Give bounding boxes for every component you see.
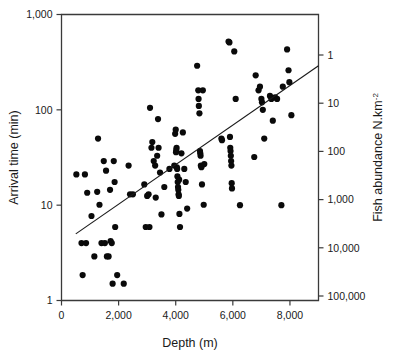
- data-point: [260, 107, 266, 113]
- data-point: [94, 189, 100, 195]
- data-point: [102, 240, 108, 246]
- data-point: [80, 272, 86, 278]
- data-point: [153, 195, 159, 201]
- x-tick-label: 0: [59, 309, 65, 321]
- data-point: [155, 116, 161, 122]
- data-point: [194, 63, 200, 69]
- data-point: [154, 153, 160, 159]
- y-tick-label: 100: [35, 104, 53, 116]
- data-point: [199, 181, 205, 187]
- secondary-y-tick-label: 10: [328, 97, 340, 109]
- data-point: [73, 171, 79, 177]
- data-point: [285, 67, 291, 73]
- data-point: [88, 213, 94, 219]
- data-point: [226, 39, 232, 45]
- data-point: [109, 240, 115, 246]
- data-point: [231, 48, 237, 54]
- data-point: [195, 96, 201, 102]
- data-point: [180, 129, 186, 135]
- data-point: [176, 193, 182, 199]
- data-point: [111, 158, 117, 164]
- data-point: [228, 163, 234, 169]
- y-axis-title: Arrival time (min): [7, 110, 21, 204]
- data-point: [176, 177, 182, 183]
- y-tick-label: 1,000: [26, 8, 52, 20]
- data-point: [96, 202, 102, 208]
- data-point: [155, 145, 161, 151]
- data-point: [270, 118, 276, 124]
- data-point: [176, 211, 182, 217]
- data-point: [149, 139, 155, 145]
- y-tick-label: 1: [47, 294, 53, 306]
- data-point: [147, 105, 153, 111]
- data-point: [253, 72, 259, 78]
- x-axis-ticks: 02,0004,0006,0008,000: [59, 301, 304, 321]
- data-point: [233, 96, 239, 102]
- data-point: [229, 185, 235, 191]
- data-point: [261, 135, 267, 141]
- scatter-chart-figure: 02,0004,0006,0008,000 1101001,000 110100…: [0, 0, 394, 359]
- secondary-y-axis-title-base: Fish abundance N.km: [371, 100, 385, 222]
- data-points-layer: [73, 38, 294, 286]
- data-point: [177, 224, 183, 230]
- data-point: [197, 153, 203, 159]
- x-tick-label: 4,000: [163, 309, 189, 321]
- data-point: [152, 163, 158, 169]
- data-point: [121, 281, 127, 287]
- data-point: [183, 179, 189, 185]
- x-tick-label: 8,000: [277, 309, 303, 321]
- data-point: [278, 202, 284, 208]
- data-point: [146, 224, 152, 230]
- data-point: [178, 150, 184, 156]
- data-point: [84, 190, 90, 196]
- data-point: [112, 224, 118, 230]
- data-point: [82, 171, 88, 177]
- data-point: [106, 253, 112, 259]
- data-point: [91, 253, 97, 259]
- data-point: [144, 193, 150, 199]
- x-tick-label: 2,000: [105, 309, 131, 321]
- secondary-y-tick-label: 100,000: [328, 290, 366, 302]
- data-point: [288, 112, 294, 118]
- x-tick-label: 6,000: [220, 309, 246, 321]
- data-point: [184, 206, 190, 212]
- data-point: [219, 137, 225, 143]
- data-point: [107, 187, 113, 193]
- data-point: [95, 135, 101, 141]
- data-point: [196, 103, 202, 109]
- secondary-y-tick-label: 1: [328, 49, 334, 61]
- data-point: [126, 163, 132, 169]
- data-point: [174, 166, 180, 172]
- data-point: [200, 87, 206, 93]
- data-point: [201, 202, 207, 208]
- data-point: [201, 161, 207, 167]
- secondary-y-axis-title: Fish abundance N.km-2: [371, 93, 386, 222]
- data-point: [228, 153, 234, 159]
- data-point: [148, 145, 154, 151]
- data-point: [227, 134, 233, 140]
- data-point: [237, 202, 243, 208]
- data-point: [161, 184, 167, 190]
- data-point: [181, 166, 187, 172]
- secondary-y-axis-title-exponent: -2: [371, 93, 380, 101]
- data-point: [112, 179, 118, 185]
- secondary-y-tick-label: 100: [328, 145, 346, 157]
- data-point: [158, 211, 164, 217]
- data-point: [173, 127, 179, 133]
- chart-canvas: 02,0004,0006,0008,000 1101001,000 110100…: [0, 0, 394, 359]
- plot-frame: [62, 15, 319, 301]
- plot-area-border: [62, 15, 319, 301]
- data-point: [173, 145, 179, 151]
- data-point: [251, 154, 257, 160]
- data-point: [110, 281, 116, 287]
- secondary-y-axis-ticks: 1101001,00010,000100,000: [319, 49, 366, 302]
- data-point: [257, 84, 263, 90]
- data-point: [83, 240, 89, 246]
- secondary-y-tick-label: 1,000: [328, 193, 354, 205]
- data-point: [284, 46, 290, 52]
- data-point: [103, 168, 109, 174]
- data-point: [196, 110, 202, 116]
- y-axis-ticks: 1101001,000: [26, 8, 61, 306]
- data-point: [274, 96, 280, 102]
- y-tick-label: 10: [41, 199, 53, 211]
